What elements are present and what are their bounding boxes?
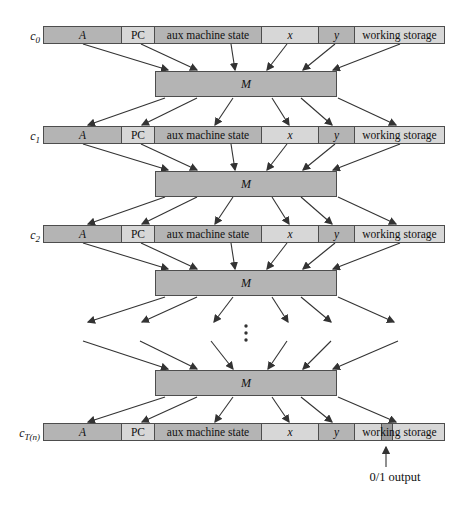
cell-y: y [318, 127, 354, 143]
arrows-m4-to-ctn [88, 397, 396, 422]
arrows-ellipsis-to-m4 [83, 341, 398, 369]
register-row-c0: A PC aux machine state x y working stora… [43, 26, 445, 44]
cell-program-counter: PC [121, 127, 154, 143]
row-label-ctn: cT(n) [0, 426, 40, 440]
cell-aux-machine-state: aux machine state [154, 127, 261, 143]
register-row-c1: A PC aux machine state x y working stora… [43, 126, 445, 144]
cell-y: y [318, 27, 354, 43]
machine-box-4: M [155, 370, 337, 396]
row-label-c0: c0 [0, 29, 40, 43]
output-label: 0/1 output [350, 470, 440, 485]
cell-working-storage: working storage [354, 226, 444, 242]
cell-x: x [261, 226, 318, 242]
cell-aux-machine-state: aux machine state [154, 27, 261, 43]
arrows-m3-to-ellipsis [88, 297, 394, 322]
cell-x: x [261, 127, 318, 143]
cell-working-storage: working storage [354, 424, 444, 440]
cell-program-counter: PC [121, 27, 154, 43]
arrows-c1-to-m2 [83, 144, 400, 170]
cell-x: x [261, 424, 318, 440]
cell-accumulator: A [44, 226, 121, 242]
arrows-m1-to-c1 [88, 98, 396, 125]
cell-aux-machine-state: aux machine state [154, 424, 261, 440]
cell-program-counter: PC [121, 226, 154, 242]
cell-y: y [318, 424, 354, 440]
register-row-c2: A PC aux machine state x y working stora… [43, 225, 445, 243]
machine-box-1: M [155, 71, 337, 97]
cell-accumulator: A [44, 27, 121, 43]
arrows-m2-to-c2 [88, 197, 396, 224]
cell-working-storage: working storage [354, 27, 444, 43]
register-row-ctn: A PC aux machine state x y working stora… [43, 423, 445, 441]
cell-y: y [318, 226, 354, 242]
cell-program-counter: PC [121, 424, 154, 440]
cell-accumulator: A [44, 127, 121, 143]
machine-box-3: M [155, 270, 337, 296]
machine-box-2: M [155, 171, 337, 197]
row-label-c1: c1 [0, 129, 40, 143]
cell-accumulator: A [44, 424, 121, 440]
arrows-c0-to-m1 [83, 44, 400, 70]
row-label-c2: c2 [0, 228, 40, 242]
vertical-ellipsis [244, 324, 247, 341]
cell-x: x [261, 27, 318, 43]
cell-working-storage: working storage [354, 127, 444, 143]
configuration-diagram: c0 A PC aux machine state x y working st… [0, 0, 469, 507]
cell-aux-machine-state: aux machine state [154, 226, 261, 242]
arrows-c2-to-m3 [83, 243, 400, 269]
